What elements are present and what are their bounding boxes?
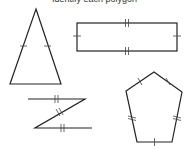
rectangle xyxy=(73,19,181,55)
polygon-diagram xyxy=(0,0,189,149)
regular-pentagon xyxy=(126,72,182,146)
z-shape xyxy=(28,95,92,132)
isosceles-triangle xyxy=(10,9,61,84)
tick-mark xyxy=(138,78,142,85)
